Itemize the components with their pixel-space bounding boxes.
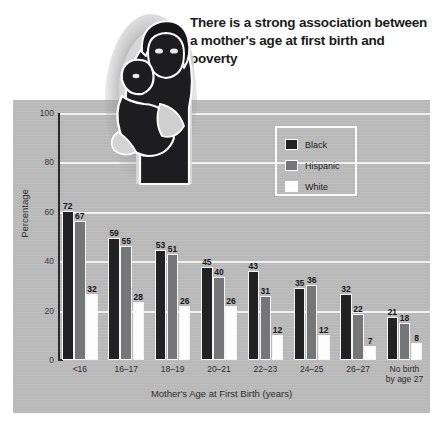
bar-white: 26 xyxy=(179,306,191,360)
y-tick-0: 0 xyxy=(20,355,54,365)
bar-value-label: 26 xyxy=(180,296,189,306)
bar-black: 35 xyxy=(294,288,306,360)
legend-item-black: Black xyxy=(285,135,355,154)
x-tick-label: 22–23 xyxy=(254,364,278,374)
bar-hispanic: 22 xyxy=(352,314,364,360)
bar-hispanic: 31 xyxy=(260,296,272,360)
bar-value-label: 59 xyxy=(109,228,118,238)
legend-label-black: Black xyxy=(305,140,327,150)
bar-value-label: 67 xyxy=(75,211,84,221)
legend-item-white: White xyxy=(285,177,355,196)
bar-value-label: 55 xyxy=(121,236,130,246)
bar-value-label: 72 xyxy=(63,201,72,211)
legend-swatch-black xyxy=(285,139,298,150)
legend-item-hispanic: Hispanic xyxy=(285,156,355,175)
bar-hispanic: 36 xyxy=(306,285,318,360)
bar-value-label: 45 xyxy=(202,257,211,267)
plot-area: 100 80 60 40 20 0 Percentage 726732<1659… xyxy=(13,100,430,413)
bar-value-label: 36 xyxy=(307,275,316,285)
y-tick-20: 20 xyxy=(20,306,54,316)
x-tick-label: 26–27 xyxy=(346,364,370,374)
x-tick-label: No birthby age 27 xyxy=(386,364,423,384)
page-title: There is a strong association between a … xyxy=(190,14,430,67)
bar-value-label: 35 xyxy=(295,278,304,288)
bar-value-label: 28 xyxy=(134,292,143,302)
bar-hispanic: 67 xyxy=(74,221,86,360)
bar-hispanic: 18 xyxy=(399,323,411,360)
legend-label-white: White xyxy=(305,182,328,192)
bar-hispanic: 40 xyxy=(213,277,225,360)
bar-white: 8 xyxy=(411,343,423,360)
bar-value-label: 26 xyxy=(226,296,235,306)
bar-group: 21188No birthby age 27 xyxy=(387,153,423,360)
bar-value-label: 53 xyxy=(156,240,165,250)
bar-black: 72 xyxy=(62,211,74,360)
x-tick-label: <16 xyxy=(73,364,87,374)
legend-label-hispanic: Hispanic xyxy=(305,161,340,171)
bar-black: 53 xyxy=(155,250,167,360)
bar-value-label: 32 xyxy=(341,284,350,294)
bar-black: 32 xyxy=(340,294,352,360)
x-tick-label: 16–17 xyxy=(114,364,138,374)
bar-value-label: 40 xyxy=(214,267,223,277)
bar-value-label: 21 xyxy=(388,307,397,317)
bar-white: 12 xyxy=(272,335,284,360)
bar-value-label: 32 xyxy=(87,284,96,294)
bar-value-label: 8 xyxy=(414,333,419,343)
bar-white: 12 xyxy=(318,335,330,360)
bar-value-label: 31 xyxy=(261,286,270,296)
bar-black: 21 xyxy=(387,317,399,360)
mother-and-baby-illustration xyxy=(96,8,202,186)
y-axis-label: Percentage xyxy=(19,159,30,269)
bar-white: 7 xyxy=(364,346,376,360)
bar-hispanic: 55 xyxy=(120,246,132,360)
legend: Black Hispanic White xyxy=(275,126,357,196)
bar-black: 59 xyxy=(108,238,120,360)
x-tick-label: 24–25 xyxy=(300,364,324,374)
bar-group: 726732<16 xyxy=(62,153,98,360)
bar-white: 26 xyxy=(225,306,237,360)
bar-black: 43 xyxy=(248,271,260,360)
bar-value-label: 12 xyxy=(273,325,282,335)
legend-swatch-hispanic xyxy=(285,160,298,171)
x-tick-label: 20–21 xyxy=(207,364,231,374)
bar-value-label: 43 xyxy=(249,261,258,271)
bar-white: 32 xyxy=(86,294,98,360)
bar-value-label: 7 xyxy=(368,336,373,346)
bar-value-label: 51 xyxy=(168,244,177,254)
poverty-by-mothers-age-infographic: There is a strong association between a … xyxy=(0,0,443,425)
legend-swatch-white xyxy=(285,181,298,192)
x-axis-label: Mother's Age at First Birth (years) xyxy=(13,388,430,399)
bar-black: 45 xyxy=(201,267,213,360)
chart-panel: 100 80 60 40 20 0 Percentage 726732<1659… xyxy=(13,100,430,413)
x-tick-label: 18–19 xyxy=(161,364,185,374)
bar-value-label: 12 xyxy=(319,325,328,335)
bar-value-label: 22 xyxy=(353,304,362,314)
bar-white: 28 xyxy=(133,302,145,360)
bar-group: 45402620–21 xyxy=(201,153,237,360)
bar-value-label: 18 xyxy=(400,313,409,323)
bar-hispanic: 51 xyxy=(167,254,179,360)
y-tick-100: 100 xyxy=(20,108,54,118)
